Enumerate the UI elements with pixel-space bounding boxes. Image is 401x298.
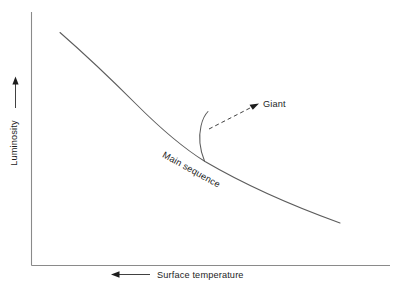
giant-label: Giant xyxy=(263,100,286,109)
main-sequence-curve xyxy=(60,33,340,224)
giant-pointer-line xyxy=(209,107,252,129)
x-axis-label: Surface temperature xyxy=(157,271,244,280)
hr-diagram-figure: Luminosity Surface temperature Giant Mai… xyxy=(0,0,401,298)
giant-branch-curve xyxy=(200,112,208,162)
y-axis-label: Luminosity xyxy=(10,120,19,165)
left-arrow-icon xyxy=(111,271,120,278)
hr-diagram-canvas xyxy=(0,0,401,298)
up-arrow-icon xyxy=(12,77,18,85)
giant-pointer-arrowhead xyxy=(250,104,260,110)
